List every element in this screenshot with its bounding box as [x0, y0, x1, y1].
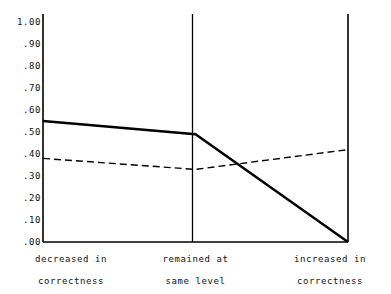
x-tick-label-line: remained at	[136, 254, 256, 265]
x-tick-label-group: remained atsame level	[136, 254, 256, 287]
chart-container: .00.10.20.30.40.50.60.70.80.901.00 decre…	[0, 0, 391, 294]
x-tick-label-line: same level	[136, 276, 256, 287]
data-series-layer	[43, 121, 348, 242]
x-tick-label-group: decreased incorrectness	[11, 254, 131, 287]
plot-area	[0, 0, 391, 294]
x-tick-label-line: correctness	[11, 276, 131, 287]
x-tick-label-line: increased in	[270, 254, 390, 265]
x-tick-label-line: correctness	[270, 276, 390, 287]
series-line-solid	[43, 121, 348, 242]
axis-lines	[43, 14, 348, 242]
x-tick-label-line: decreased in	[11, 254, 131, 265]
series-line-dashed	[43, 150, 348, 170]
x-tick-label-group: increased incorrectness	[270, 254, 390, 287]
